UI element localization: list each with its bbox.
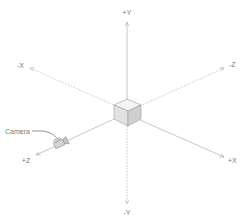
pos-z-axis xyxy=(36,119,114,155)
pos-x-axis xyxy=(140,120,224,157)
origin-cube-icon xyxy=(114,99,141,126)
camera-label: Camera xyxy=(5,128,30,135)
neg-z-label: -Z xyxy=(229,61,236,68)
neg-z-axis xyxy=(140,68,224,106)
camera-leader-line xyxy=(32,131,58,139)
pos-z-label: +Z xyxy=(22,157,31,164)
pos-x-label: +X xyxy=(228,157,237,164)
neg-x-label: -X xyxy=(17,62,24,69)
pos-y-label: +Y xyxy=(123,9,132,16)
camera-icon xyxy=(52,135,69,150)
neg-x-axis xyxy=(30,68,116,106)
neg-y-label: -Y xyxy=(124,209,131,216)
axes-diagram: +Y -Y -X -Z +X +Z Camera xyxy=(0,0,242,221)
